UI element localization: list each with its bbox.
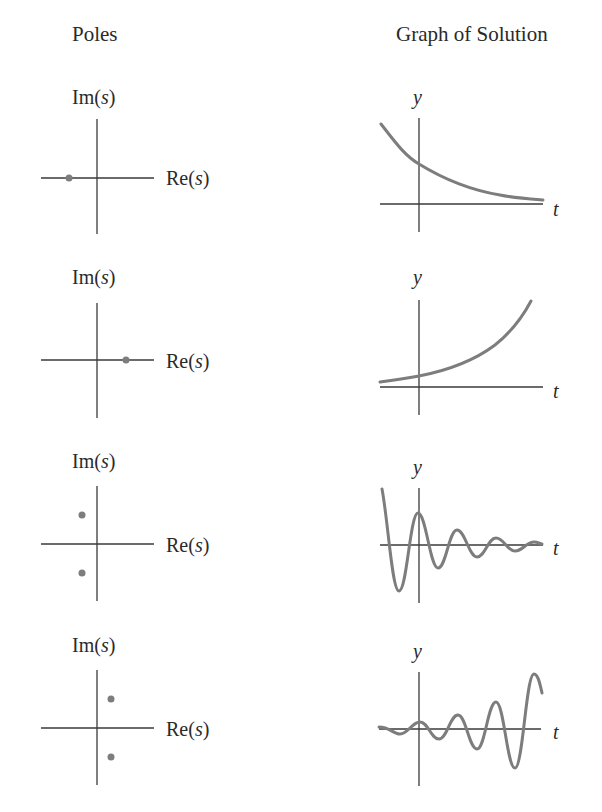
pole-marker-upper [79, 512, 86, 519]
pole-marker-lower [79, 570, 86, 577]
growth-curve [380, 301, 531, 382]
pole-marker [123, 357, 130, 364]
growing-oscillation-curve [379, 674, 542, 768]
pole-plane-4 [41, 670, 154, 785]
diagram-canvas [0, 0, 602, 812]
pole-marker-lower [108, 754, 115, 761]
solution-graph-1 [380, 118, 543, 232]
damped-oscillation-curve [382, 489, 542, 591]
pole-plane-2 [41, 303, 154, 418]
pole-marker [66, 175, 73, 182]
pole-plane-3 [41, 486, 154, 601]
pole-plane-1 [41, 119, 154, 234]
pole-marker-upper [108, 696, 115, 703]
solution-graph-2 [380, 300, 543, 415]
solution-graph-4 [379, 672, 542, 786]
solution-graph-3 [380, 488, 543, 603]
decay-curve [381, 124, 543, 200]
